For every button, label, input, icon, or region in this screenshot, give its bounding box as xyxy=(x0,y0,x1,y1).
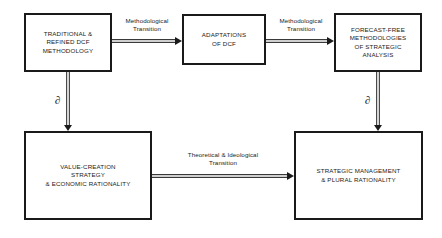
node-value-creation-strategy[interactable]: VALUE-CREATION STRATEGY & ECONOMIC RATIO… xyxy=(24,131,152,220)
node-traditional-refined-dcf-methodology[interactable]: TRADITIONAL & REFINED DCF METHODOLOGY xyxy=(24,13,112,72)
arrow-dcf-to-value-creation xyxy=(66,72,70,131)
arrow-shaft xyxy=(66,72,70,126)
node-strategic-management[interactable]: STRATEGIC MANAGEMENT & PLURAL RATIONALIT… xyxy=(294,131,423,220)
arrow-shaft xyxy=(112,39,176,43)
arrow-head-right-icon xyxy=(287,172,294,180)
edge-label-methodological-transition-1: Methodological Transition xyxy=(110,17,184,34)
node-forecast-free-methodologies[interactable]: FORECAST-FREE METHODOLOGIES OF STRATEGIC… xyxy=(334,13,422,72)
edge-label-methodological-transition-2: Methodological Transition xyxy=(264,17,338,34)
arrow-value-creation-to-strategic-management xyxy=(152,174,294,178)
arrow-dcf-to-adaptations xyxy=(112,39,182,43)
arrow-adaptations-to-forecast-free xyxy=(266,39,334,43)
node-adaptations-of-dcf[interactable]: ADAPTATIONS OF DCF xyxy=(182,14,266,65)
node-label: FORECAST-FREE METHODOLOGIES OF STRATEGIC… xyxy=(347,26,410,59)
diagram-canvas: TRADITIONAL & REFINED DCF METHODOLOGY AD… xyxy=(0,0,442,238)
node-label: ADAPTATIONS OF DCF xyxy=(199,31,249,47)
node-label: STRATEGIC MANAGEMENT & PLURAL RATIONALIT… xyxy=(313,167,403,183)
node-label: VALUE-CREATION STRATEGY & ECONOMIC RATIO… xyxy=(42,163,133,188)
node-label: TRADITIONAL & REFINED DCF METHODOLOGY xyxy=(40,30,96,55)
arrow-shaft xyxy=(152,174,288,178)
arrow-head-right-icon xyxy=(327,37,334,45)
arrow-head-right-icon xyxy=(175,37,182,45)
arrow-shaft xyxy=(266,39,328,43)
edge-label-theoretical-ideological-transition: Theoretical & Ideological Transition xyxy=(156,151,290,168)
edge-label-partial-derivative-right: ∂ xyxy=(365,95,370,106)
edge-label-partial-derivative-left: ∂ xyxy=(55,95,60,106)
arrow-forecast-free-to-strategic-management xyxy=(376,72,380,131)
arrow-shaft xyxy=(376,72,380,126)
